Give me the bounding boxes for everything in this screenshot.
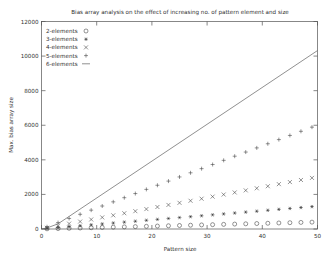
y-tick-label: 0 <box>35 226 39 232</box>
x-tick-label: 0 <box>40 233 44 239</box>
chart-legend: 2-elements3-elements4-elements5-elements… <box>46 28 90 67</box>
legend-label-5-elements: 5-elements <box>46 53 78 59</box>
x-tick-label: 10 <box>93 233 101 239</box>
y-tick-label: 8000 <box>24 88 39 94</box>
chart-figure: Bias array analysis on the effect of inc… <box>0 0 336 257</box>
x-tick-label: 20 <box>148 233 156 239</box>
y-tick-label: 4000 <box>24 157 39 163</box>
series-3-elements <box>45 205 314 230</box>
x-axis-label: Pattern size <box>164 246 197 252</box>
x-tick-label: 40 <box>259 233 267 239</box>
legend-label-3-elements: 3-elements <box>46 36 78 42</box>
x-tick-label: 30 <box>204 233 212 239</box>
y-tick-label: 2000 <box>24 191 39 197</box>
legend-label-4-elements: 4-elements <box>46 44 78 50</box>
y-tick-label: 6000 <box>24 122 39 128</box>
series-5-elements <box>45 125 314 229</box>
legend-marker-plus-icon <box>84 54 88 58</box>
x-axis-ticks: 01020304050 <box>40 22 322 240</box>
chart-title: Bias array analysis on the effect of inc… <box>71 9 289 16</box>
legend-label-2-elements: 2-elements <box>46 28 78 34</box>
y-tick-label: 12000 <box>21 19 39 25</box>
legend-marker-cross-icon <box>84 45 88 49</box>
x-tick-label: 50 <box>314 233 322 239</box>
y-axis-label: Max. bias array size <box>8 97 15 153</box>
y-axis-ticks: 020004000600080001000012000 <box>21 19 318 233</box>
series-6-elements <box>42 51 318 229</box>
legend-marker-circle-icon <box>84 29 88 33</box>
series-4-elements <box>45 176 314 230</box>
legend-marker-asterisk-icon <box>84 38 88 41</box>
plot-series-group <box>42 51 318 231</box>
chart-canvas: Bias array analysis on the effect of inc… <box>0 0 336 257</box>
legend-label-6-elements: 6-elements <box>46 61 78 67</box>
y-tick-label: 10000 <box>21 53 39 59</box>
plot-frame <box>42 22 318 230</box>
